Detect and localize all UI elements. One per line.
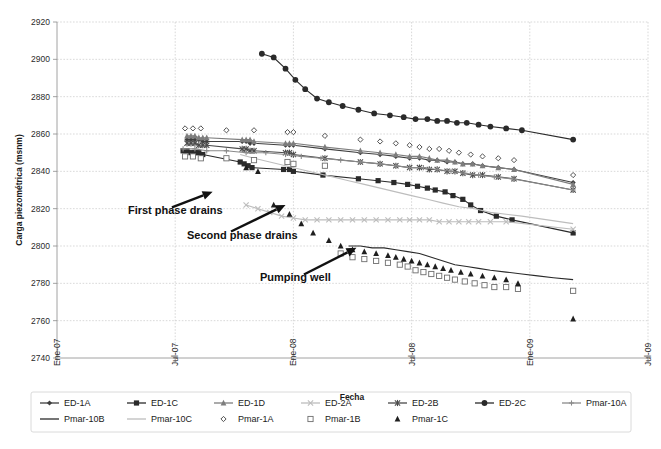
legend-marker bbox=[47, 400, 52, 405]
data-point bbox=[456, 150, 461, 155]
data-point bbox=[393, 254, 399, 260]
data-point bbox=[190, 154, 195, 159]
data-point bbox=[326, 237, 332, 243]
data-point bbox=[480, 154, 485, 159]
data-point bbox=[448, 267, 454, 273]
data-point bbox=[440, 265, 446, 271]
ytick-labels: 2740276027802800282028402860288029002920 bbox=[31, 17, 50, 363]
data-point bbox=[322, 163, 327, 168]
axes-layer bbox=[53, 22, 648, 362]
legend-item-pmar-1a[interactable]: Pmar-1A bbox=[221, 414, 274, 424]
legend-item-ed-1d[interactable]: ED-1D bbox=[214, 398, 266, 408]
y-tick-label: 2740 bbox=[31, 353, 50, 363]
data-point bbox=[415, 184, 420, 189]
x-tick-label: Ene-08 bbox=[288, 338, 298, 366]
data-point bbox=[251, 158, 256, 163]
annotation-label: Second phase drains bbox=[187, 229, 298, 241]
legend-item-pmar-10c[interactable]: Pmar-10C bbox=[127, 414, 193, 424]
legend-marker bbox=[308, 416, 313, 421]
chart-canvas: 2740276027802800282028402860288029002920… bbox=[0, 0, 661, 449]
data-point bbox=[393, 141, 398, 146]
series-layer bbox=[180, 51, 576, 322]
data-point bbox=[468, 152, 473, 157]
data-point bbox=[190, 126, 195, 131]
legend-label: ED-2B bbox=[412, 398, 439, 408]
legend-marker bbox=[221, 416, 226, 421]
data-point bbox=[292, 77, 298, 83]
y-tick-label: 2900 bbox=[31, 54, 50, 64]
legend-label: ED-2C bbox=[499, 398, 527, 408]
data-point bbox=[468, 202, 473, 207]
legend-label: ED-1A bbox=[64, 398, 91, 408]
data-point bbox=[302, 86, 308, 92]
data-point bbox=[224, 156, 229, 161]
legend-label: Pmar-1C bbox=[412, 414, 449, 424]
legend-item-pmar-1b[interactable]: Pmar-1B bbox=[308, 414, 361, 424]
data-point bbox=[503, 276, 509, 282]
data-point bbox=[515, 286, 520, 291]
legend-label: Pmar-10B bbox=[64, 414, 105, 424]
x-tick-label: Ene-09 bbox=[525, 338, 535, 366]
legend-item-pmar-1c[interactable]: Pmar-1C bbox=[395, 414, 449, 424]
data-point bbox=[570, 137, 576, 143]
legend-item-ed-2a[interactable]: ED-2A bbox=[301, 398, 352, 408]
data-point bbox=[291, 169, 296, 174]
data-point bbox=[464, 120, 470, 126]
data-point bbox=[397, 262, 402, 267]
legend-label: Pmar-1B bbox=[325, 414, 361, 424]
series-line bbox=[262, 54, 573, 140]
data-point bbox=[571, 288, 576, 293]
data-point bbox=[434, 118, 440, 124]
data-point bbox=[350, 255, 355, 260]
data-point bbox=[458, 269, 464, 275]
y-tick-label: 2840 bbox=[31, 166, 50, 176]
annotations-layer: First phase drainsSecond phase drainsPum… bbox=[128, 191, 357, 283]
data-point bbox=[424, 261, 430, 267]
data-point bbox=[460, 197, 465, 202]
data-point bbox=[571, 172, 576, 177]
data-point bbox=[281, 167, 286, 172]
data-point bbox=[492, 284, 497, 289]
data-point bbox=[362, 256, 367, 261]
data-point bbox=[361, 248, 367, 254]
data-point bbox=[371, 111, 377, 117]
legend-item-ed-2c[interactable]: ED-2C bbox=[475, 398, 527, 408]
data-point bbox=[271, 55, 277, 61]
data-point bbox=[387, 112, 393, 118]
annotation-label: First phase drains bbox=[128, 204, 223, 216]
data-point bbox=[401, 256, 407, 262]
legend-item-pmar-10b[interactable]: Pmar-10B bbox=[40, 414, 105, 424]
data-point bbox=[356, 176, 361, 181]
data-point bbox=[424, 116, 430, 122]
grid-layer bbox=[57, 22, 648, 358]
data-point bbox=[437, 146, 442, 151]
data-point bbox=[310, 230, 316, 236]
legend-label: Pmar-10A bbox=[586, 398, 627, 408]
data-point bbox=[421, 270, 426, 275]
data-point bbox=[446, 148, 451, 153]
data-point bbox=[472, 281, 477, 286]
data-point bbox=[454, 120, 460, 126]
legend-item-ed-2b[interactable]: ED-2B bbox=[388, 398, 439, 408]
series-ed-2b bbox=[184, 140, 575, 193]
data-point bbox=[283, 66, 289, 72]
legend: ED-1AED-1CED-1DED-2AED-2BED-2CPmar-10APm… bbox=[31, 392, 631, 432]
data-point bbox=[285, 159, 290, 164]
data-point bbox=[432, 263, 438, 269]
legend-item-ed-1a[interactable]: ED-1A bbox=[40, 398, 91, 408]
legend-item-pmar-10a[interactable]: Pmar-10A bbox=[562, 398, 627, 408]
data-point bbox=[433, 187, 438, 192]
data-point bbox=[468, 271, 474, 277]
legend-item-ed-1c[interactable]: ED-1C bbox=[127, 398, 179, 408]
data-point bbox=[251, 128, 256, 133]
data-point bbox=[425, 186, 430, 191]
x-tick-label: Jul-09 bbox=[643, 343, 653, 366]
annotation-arrow-head bbox=[202, 191, 213, 199]
data-point bbox=[356, 107, 362, 113]
data-point bbox=[340, 103, 346, 109]
data-point bbox=[401, 114, 407, 120]
y-tick-label: 2880 bbox=[31, 92, 50, 102]
legend-label: Pmar-1A bbox=[238, 414, 274, 424]
data-point bbox=[373, 250, 379, 256]
data-point bbox=[429, 271, 434, 276]
